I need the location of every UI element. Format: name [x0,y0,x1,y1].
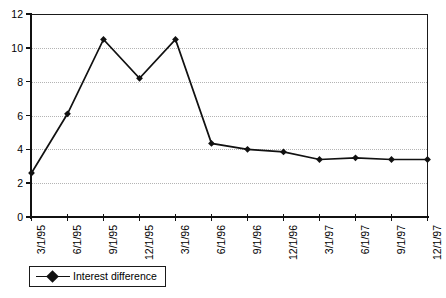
x-tick-label-2: 9/1/95 [108,225,119,254]
x-axis-line [30,216,429,218]
legend-label-interest-difference: Interest difference [73,271,157,282]
x-tick-label-1: 6/1/95 [72,225,83,254]
y-tick-label-4: 4 [0,144,23,155]
x-tick-label-9: 6/1/97 [360,225,371,254]
x-tick-label-0: 3/1/95 [36,225,47,254]
y-tick-12 [26,13,32,15]
line-chart: 024681012 3/1/956/1/959/1/9512/1/953/1/9… [0,0,446,298]
x-tick-label-8: 3/1/97 [324,225,335,254]
x-tick-label-6: 9/1/96 [252,225,263,254]
gridline-y-4 [32,149,427,150]
x-tick-label-10: 9/1/97 [396,225,407,254]
gridline-y-2 [32,183,427,184]
y-tick-label-6: 6 [0,111,23,122]
x-tick-9 [355,214,357,221]
y-tick-label-10: 10 [0,43,23,54]
legend-marker-interest-difference [36,270,70,284]
x-tick-1 [67,214,69,221]
y-tick-label-12: 12 [0,9,23,20]
x-tick-6 [247,214,249,221]
y-tick-8 [26,81,32,83]
y-tick-2 [26,182,32,184]
gridline-y-6 [32,116,427,117]
legend: Interest difference [29,266,166,287]
x-tick-label-3: 12/1/95 [144,225,155,260]
gridline-y-8 [32,82,427,83]
x-tick-3 [139,214,141,221]
x-tick-label-5: 6/1/96 [216,225,227,254]
x-tick-4 [175,214,177,221]
x-tick-2 [103,214,105,221]
y-tick-label-2: 2 [0,178,23,189]
y-tick-4 [26,149,32,151]
x-tick-0 [31,214,33,221]
x-tick-5 [211,214,213,221]
x-tick-label-11: 12/1/97 [432,225,443,260]
gridline-y-10 [32,48,427,49]
x-tick-label-4: 3/1/96 [180,225,191,254]
y-tick-10 [26,47,32,49]
x-tick-7 [283,214,285,221]
x-tick-11 [427,214,429,221]
y-tick-label-0: 0 [0,212,23,223]
x-tick-label-7: 12/1/96 [288,225,299,260]
x-tick-10 [391,214,393,221]
y-tick-6 [26,115,32,117]
x-tick-8 [319,214,321,221]
diamond-marker-icon [46,270,59,283]
y-tick-label-8: 8 [0,77,23,88]
